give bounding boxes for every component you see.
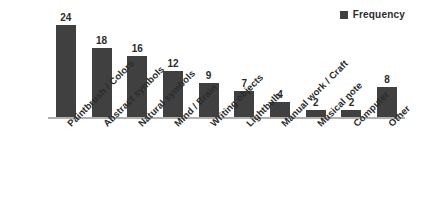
bar-group: 24 [48, 4, 84, 118]
bar-value-label: 9 [206, 70, 212, 81]
bar-chart: Frequency 24181612974228 Paintbrush / Co… [0, 0, 421, 210]
x-axis-tick: Computer [334, 119, 370, 210]
x-axis-tick: Other [369, 119, 405, 210]
x-axis-tick: Natural symbols [119, 119, 155, 210]
x-axis-tick: Lightbulb [227, 119, 263, 210]
x-axis-tick: Abstract symbols [84, 119, 120, 210]
x-axis-tick: Writing objects [191, 119, 227, 210]
x-axis-tick: Mind / Brain [155, 119, 191, 210]
x-axis-category-labels: Paintbrush / ColorsAbstract symbolsNatur… [48, 119, 405, 210]
bar-value-label: 16 [132, 43, 143, 54]
bar-value-label: 24 [60, 12, 71, 23]
bar-value-label: 18 [96, 35, 107, 46]
bar [56, 25, 76, 118]
bar-value-label: 12 [167, 58, 178, 69]
x-axis-tick: Musical note [298, 119, 334, 210]
bar-value-label: 8 [384, 74, 390, 85]
x-axis-tick: Paintbrush / Colors [48, 119, 84, 210]
x-axis-tick: Manual work / Craft [262, 119, 298, 210]
